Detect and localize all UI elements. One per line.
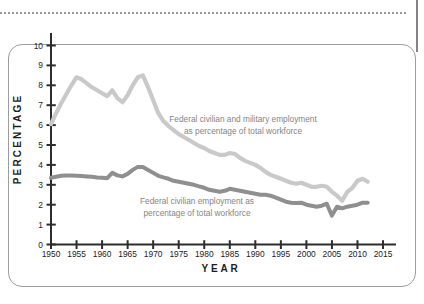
y-axis-title: PERCENTAGE [12, 94, 23, 185]
x-tick-label: 1950 [42, 249, 61, 259]
x-tick-label: 2010 [348, 249, 367, 259]
x-tick-label: 1985 [220, 249, 239, 259]
annotation-0-line-1: as percentage of total workforce [184, 126, 302, 136]
x-tick-label: 1980 [195, 249, 214, 259]
y-tick-label: 4 [38, 160, 43, 170]
axes: 0123456789101950195519601965197019751980… [34, 33, 396, 259]
x-axis-title: YEAR [202, 263, 241, 274]
x-tick-label: 2015 [374, 249, 393, 259]
page: 0123456789101950195519601965197019751980… [0, 0, 424, 304]
y-tick-label: 8 [38, 80, 43, 90]
y-tick-label: 9 [38, 60, 43, 70]
series-lines [51, 75, 368, 215]
x-tick-label: 1955 [67, 249, 86, 259]
y-tick-label: 1 [38, 220, 43, 230]
series-line-0 [51, 75, 368, 200]
y-tick-label: 2 [38, 200, 43, 210]
y-tick-label: 5 [38, 140, 43, 150]
annotation-0-line-0: Federal civilian and military employment [169, 114, 317, 124]
chart-canvas: 0123456789101950195519601965197019751980… [0, 0, 424, 304]
y-tick-label: 7 [38, 100, 43, 110]
annotation-1-line-0: Federal civilian employment as [140, 196, 254, 206]
y-tick-label: 10 [34, 41, 44, 51]
annotation-1-line-1: percentage of total workforce [144, 208, 251, 218]
x-tick-label: 1995 [272, 249, 291, 259]
y-tick-label: 6 [38, 120, 43, 130]
x-tick-label: 1970 [144, 249, 163, 259]
x-tick-label: 2000 [297, 249, 316, 259]
x-tick-label: 2005 [323, 249, 342, 259]
x-tick-label: 1960 [93, 249, 112, 259]
x-tick-label: 1990 [246, 249, 265, 259]
x-tick-label: 1965 [118, 249, 137, 259]
y-tick-label: 3 [38, 180, 43, 190]
x-tick-label: 1975 [169, 249, 188, 259]
